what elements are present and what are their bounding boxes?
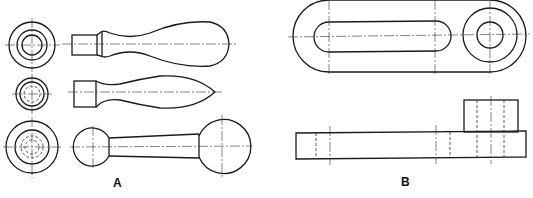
part-b — [288, 0, 530, 165]
lever-top-view — [288, 0, 530, 76]
handle-3-side-view — [70, 115, 252, 177]
technical-drawing — [0, 0, 533, 198]
part-a — [3, 18, 252, 178]
handle-3-end-view — [3, 117, 61, 178]
handle-1-end-view — [5, 18, 60, 72]
label-part-a: A — [113, 176, 122, 190]
handle-1-side-view — [62, 22, 238, 67]
handle-2-side-view — [68, 76, 222, 108]
lever-front-view — [296, 96, 526, 165]
label-part-b: B — [401, 175, 410, 189]
handle-2-end-view — [12, 74, 52, 114]
